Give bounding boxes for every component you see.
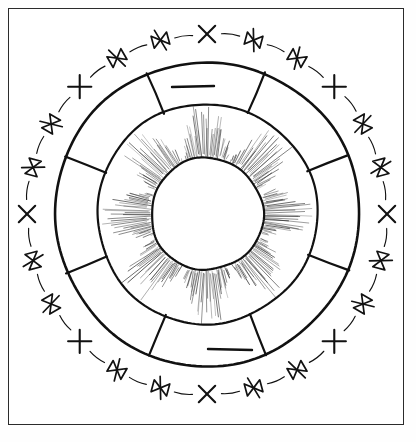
hatch-ray: [148, 187, 154, 189]
outer-ring-arc: [267, 45, 284, 52]
inner-hub-circle: [152, 157, 264, 269]
hatch-ray: [254, 159, 279, 177]
top-tick-bar: [172, 86, 214, 87]
outer-ring-arc: [344, 316, 355, 330]
hatch-ray: [264, 193, 283, 198]
bowtie-slash: [154, 376, 166, 399]
outer-ring-arc: [369, 137, 376, 154]
bowtie-mark-icon: [243, 27, 264, 52]
radial-spoke-5: [149, 315, 166, 356]
outer-ring-arc: [383, 182, 385, 200]
bowtie-mark-icon: [349, 112, 376, 137]
outer-ring-arc: [59, 97, 70, 111]
outer-ring-arc: [309, 351, 323, 362]
radial-spoke-1: [248, 72, 265, 113]
hatch-ray: [125, 156, 162, 181]
hatch-ray: [232, 156, 234, 160]
outer-ring-arc: [29, 228, 31, 246]
concentric-circles: [55, 63, 359, 367]
radial-spoke-2: [307, 155, 348, 171]
x-mark-icon: [323, 330, 346, 353]
hatch-ray: [250, 154, 268, 172]
hatch-ray: [206, 271, 207, 312]
outer-ring-arc: [370, 274, 377, 291]
hatch-ray: [202, 112, 204, 153]
radial-wheel-diagram: [0, 0, 416, 442]
hatch-ray: [141, 261, 169, 300]
outer-ring-arc: [130, 45, 147, 52]
hatch-ray: [232, 264, 236, 270]
hatch-ray: [128, 251, 164, 282]
bowtie-mark-icon: [38, 292, 65, 317]
bowtie-mark-icon: [285, 356, 310, 383]
bowtie-slash: [22, 255, 45, 267]
x-mark-icon: [199, 26, 215, 42]
figure-caption: [10, 432, 406, 442]
x-mark-icon: [323, 75, 346, 98]
hatch-ray: [264, 212, 305, 214]
outer-ring-arc: [129, 377, 146, 384]
bowtie-slash: [22, 161, 45, 173]
hatch-ray: [156, 139, 175, 167]
x-mark-icon: [68, 75, 91, 98]
hatch-ray: [226, 155, 229, 159]
outer-ring-arc: [309, 66, 323, 77]
bowtie-slash: [154, 29, 166, 52]
outer-ring-arc: [384, 228, 386, 246]
hatch-ray: [241, 261, 257, 280]
bowtie-mark-icon: [105, 45, 130, 72]
bowtie-mark-icon: [285, 45, 310, 72]
bowtie-mark-icon: [368, 157, 393, 178]
hatch-ray: [220, 139, 225, 156]
radial-spoke-6: [66, 257, 107, 274]
bowtie-mark-icon: [349, 292, 376, 317]
hatch-ray: [185, 156, 186, 159]
outer-ring-arc: [37, 274, 44, 291]
radial-spoke-7: [65, 157, 106, 173]
bottom-tick-bar: [208, 349, 252, 350]
outer-ring-arc: [267, 377, 284, 384]
bowtie-mark-icon: [20, 250, 45, 271]
outer-ring-arc: [174, 392, 192, 394]
bowtie-mark-icon: [105, 356, 130, 383]
bowtie-slash: [369, 255, 392, 267]
hatch-ray: [151, 259, 167, 280]
hatch-ray: [193, 116, 199, 154]
outer-ring-arc: [37, 136, 44, 153]
outer-ring-arc: [90, 351, 104, 362]
hatch-ray: [242, 257, 265, 289]
hatch-ray: [175, 150, 179, 161]
bowtie-mark-icon: [243, 375, 264, 400]
outer-ring-arc: [175, 35, 193, 37]
page-root: [0, 0, 416, 442]
hatch-ray: [207, 271, 208, 299]
bowtie-slash: [369, 161, 392, 173]
bowtie-mark-icon: [20, 157, 45, 178]
hatch-ray: [221, 273, 228, 298]
outer-ring-arc: [345, 97, 356, 112]
outer-ring-arc: [222, 34, 240, 36]
bowtie-mark-icon: [150, 375, 171, 400]
outer-ring-arc: [91, 66, 105, 77]
hatch-ray: [208, 107, 209, 156]
bowtie-mark-icon: [38, 112, 65, 137]
bowtie-slash: [248, 376, 260, 399]
outer-ring-arc: [60, 316, 71, 330]
radial-spoke-8: [147, 73, 164, 113]
x-mark-icon: [68, 330, 91, 353]
bowtie-mark-icon: [368, 250, 393, 271]
hatch-ray: [187, 272, 192, 288]
radial-spoke-3: [308, 255, 349, 271]
x-mark-icon: [199, 386, 215, 402]
outer-ring-arc: [221, 391, 239, 393]
hatch-ray: [204, 115, 205, 154]
bowtie-mark-icon: [150, 27, 171, 52]
outer-ring-arc: [27, 181, 29, 199]
bowtie-slash: [248, 29, 260, 52]
x-mark-icon: [379, 206, 395, 222]
x-mark-icon: [19, 206, 35, 222]
